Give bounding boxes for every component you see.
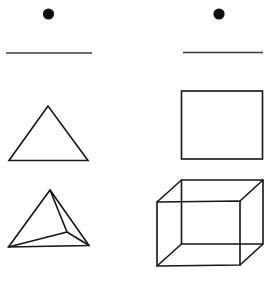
- figure-canvas: Geometric shapes: 2D figures and 3D soli…: [0, 0, 273, 281]
- geometric-shapes-figure: [0, 0, 273, 281]
- left-bullet-dot-icon: [43, 8, 54, 19]
- right-bullet-dot-icon: [213, 8, 224, 19]
